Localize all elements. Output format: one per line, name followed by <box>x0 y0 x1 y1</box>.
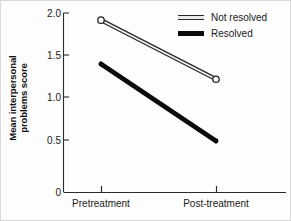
data-point-not-resolved-posttreatment <box>213 76 219 82</box>
data-point-not-resolved-pretreatment <box>98 17 104 23</box>
data-point-resolved-pretreatment <box>99 62 104 67</box>
series-line-resolved <box>99 62 219 144</box>
x-axis-ticks <box>102 186 217 192</box>
line-chart-figure: Mean interpersonal problems score 2.0 1.… <box>0 0 291 221</box>
y-axis-ticks <box>64 13 70 140</box>
data-point-resolved-posttreatment <box>214 139 219 144</box>
data-line-resolved <box>101 64 216 141</box>
plot-area <box>0 0 291 221</box>
